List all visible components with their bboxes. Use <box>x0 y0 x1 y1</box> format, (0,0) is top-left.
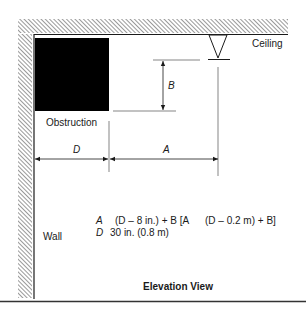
wall-label: Wall <box>43 231 62 242</box>
formula: A (D – 8 in.) + B [A (D – 0.2 m) + B] D … <box>95 215 276 238</box>
formula-line1-expr2: (D – 0.2 m) + B] <box>205 215 276 226</box>
obstruction-block <box>35 38 109 111</box>
dimension-d-label: D <box>73 144 80 155</box>
formula-line2-expr: 30 in. (0.8 m) <box>110 227 169 238</box>
elevation-view-diagram: B D A Ceiling Obstruction Wall A (D – 8 … <box>0 0 306 314</box>
ceiling-hatch <box>18 19 288 33</box>
sprinkler-icon <box>208 35 230 60</box>
dimension-b <box>113 60 200 111</box>
ceiling-label: Ceiling <box>252 38 283 49</box>
obstruction-label: Obstruction <box>46 117 97 128</box>
dimension-b-label: B <box>168 80 175 91</box>
formula-line1-var: A <box>95 215 103 226</box>
formula-line1-expr: (D – 8 in.) + B [A <box>115 215 190 226</box>
wall-hatch <box>18 34 32 298</box>
view-title: Elevation View <box>143 281 213 292</box>
formula-line2-var: D <box>96 227 103 238</box>
dimension-a-label: A <box>162 144 170 155</box>
